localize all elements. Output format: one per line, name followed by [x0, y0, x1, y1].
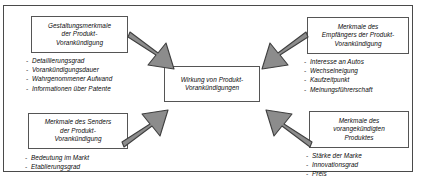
list-item-label: Informationen über Patente: [32, 84, 111, 93]
node-title-design-features: Gestaltungsmerkmale der Produkt- Vorankü…: [45, 22, 114, 47]
arrow-bottom-right-icon: [248, 102, 312, 150]
list-item-label: Interesse an Autos: [310, 57, 364, 66]
list-item-label: Kaufzeitpunkt: [310, 75, 349, 84]
list-item-label: Wechselneigung: [310, 66, 358, 75]
arrow-top-left-icon: [128, 29, 192, 77]
list-item-label: Meinungsführerschaft: [310, 85, 372, 94]
list-item: - Interesse an Autos: [304, 57, 372, 66]
list-item: - Stärke der Marke: [306, 151, 362, 160]
bullet-list-design-features: - Detaillierungsgrad - Vorankündigungsda…: [26, 56, 112, 93]
list-item-label: Bedeutung im Markt: [31, 153, 89, 162]
list-item: - Wechselneigung: [304, 66, 372, 75]
node-title-receiver-features: Merkmale des Empfängers der Produkt- Vor…: [319, 23, 398, 48]
list-item-label: Detaillierungsgrad: [32, 56, 84, 65]
arrow-bottom-left-icon: [122, 102, 186, 150]
node-title-product-features: Merkmale des vorangekündigten Produktes: [330, 117, 388, 142]
list-item: - Kaufzeitpunkt: [304, 75, 372, 84]
list-item-label: Vorankündigungsdauer: [32, 65, 99, 74]
list-item: - Bedeutung im Markt: [25, 153, 89, 162]
list-item: - Detaillierungsgrad: [26, 56, 112, 65]
node-box-receiver-features: Merkmale des Empfängers der Produkt- Vor…: [307, 17, 409, 54]
list-item: - Wahrgenommener Aufwand: [26, 74, 112, 83]
list-item: - Innovationsgrad: [306, 160, 362, 169]
bullet-list-sender-features: - Bedeutung im Markt - Etablierungsgrad: [25, 153, 89, 171]
node-title-effect-center: Wirkung von Produkt- Vorankündigungen: [178, 76, 246, 93]
node-box-sender-features: Merkmale des Senders der Produkt- Vorank…: [28, 113, 128, 149]
diagram-page: Gestaltungsmerkmale der Produkt- Vorankü…: [0, 0, 423, 183]
list-item: - Etablierungsgrad: [25, 162, 89, 171]
node-title-sender-features: Merkmale des Senders der Produkt- Vorank…: [42, 118, 115, 143]
arrow-top-right-icon: [244, 29, 308, 77]
list-item-label: Innovationsgrad: [312, 160, 358, 169]
list-item-label: Etablierungsgrad: [31, 162, 80, 171]
bullet-list-receiver-features: - Interesse an Autos - Wechselneigung - …: [304, 57, 372, 94]
list-item: - Meinungsführerschaft: [304, 85, 372, 94]
list-item: - Preis: [306, 169, 362, 178]
list-item: - Informationen über Patente: [26, 84, 112, 93]
diagram-frame: Gestaltungsmerkmale der Produkt- Vorankü…: [3, 5, 413, 172]
node-box-design-features: Gestaltungsmerkmale der Produkt- Vorankü…: [31, 16, 128, 53]
node-box-product-features: Merkmale des vorangekündigten Produktes: [309, 111, 409, 148]
bullet-list-product-features: - Stärke der Marke - Innovationsgrad - P…: [306, 151, 362, 179]
list-item-label: Stärke der Marke: [312, 151, 362, 160]
list-item: - Vorankündigungsdauer: [26, 65, 112, 74]
list-item-label: Wahrgenommener Aufwand: [32, 74, 112, 83]
list-item-label: Preis: [312, 169, 327, 178]
